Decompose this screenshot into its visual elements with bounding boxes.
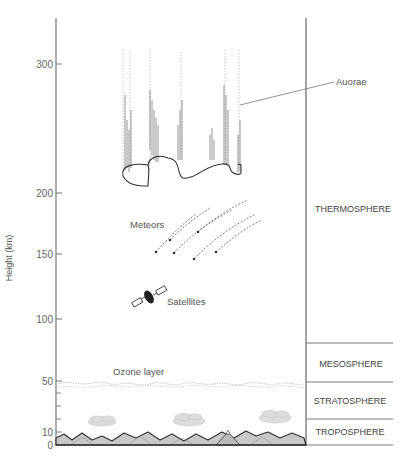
layer-thermosphere: THERMOSPHERE: [315, 204, 391, 214]
aurorae-label: Auorae: [336, 76, 367, 87]
y-axis-label: Height (km): [4, 235, 14, 282]
tick-label-50: 50: [42, 376, 54, 387]
tick-label-150: 150: [36, 249, 53, 260]
satellites-label: Satellites: [167, 296, 206, 307]
layer-stratosphere: STRATOSPHERE: [314, 396, 387, 406]
meteors: [155, 200, 262, 260]
tick-label-200: 200: [36, 188, 53, 199]
ozone-layer: [58, 382, 304, 387]
y-axis: [56, 18, 62, 446]
tick-label-10: 10: [42, 427, 54, 438]
mountains: [56, 430, 306, 445]
tick-label-100: 100: [36, 314, 53, 325]
tick-label-0: 0: [47, 440, 53, 451]
layer-troposphere: TROPOSPHERE: [315, 427, 384, 437]
satellite-icon: [132, 286, 167, 307]
atmosphere-diagram: 300 200 150 100 50 10 0 Height (km) THER…: [0, 0, 407, 465]
aurora-curtain: [123, 48, 334, 186]
meteors-label: Meteors: [130, 219, 165, 230]
tick-label-300: 300: [36, 59, 53, 70]
ozone-label: Ozone layer: [113, 366, 164, 377]
layer-mesosphere: MESOSPHERE: [319, 359, 383, 369]
clouds: [88, 411, 291, 427]
